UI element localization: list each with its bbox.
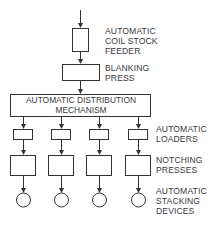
notching-press-2: [49, 156, 74, 176]
stacking-device-2: [55, 193, 69, 207]
notching-label: NOTCHING PRESSES: [156, 155, 203, 175]
feeder-label: AUTOMATIC COIL STOCK FEEDER: [105, 26, 158, 56]
stacking-device-3: [93, 193, 107, 207]
flow-diagram: AUTOMATIC COIL STOCK FEEDER BLANKING PRE…: [0, 0, 215, 231]
distribution-label-line2: MECHANISM: [11, 106, 151, 116]
blanking-box: [63, 65, 100, 81]
notching-press-1: [11, 156, 36, 176]
loader-3: [90, 130, 109, 140]
loader-2: [52, 130, 71, 140]
stacking-device-4: [132, 193, 146, 207]
blanking-label: BLANKING PRESS: [105, 63, 149, 83]
loaders-label: AUTOMATIC LOADERS: [156, 124, 207, 144]
stacking-label: AUTOMATIC STACKING DEVICES: [156, 186, 207, 216]
feeder-box: [73, 29, 89, 52]
loader-4: [129, 130, 148, 140]
notching-press-3: [87, 156, 112, 176]
loader-1: [14, 130, 33, 140]
stacking-device-1: [17, 193, 31, 207]
notching-press-4: [126, 156, 151, 176]
